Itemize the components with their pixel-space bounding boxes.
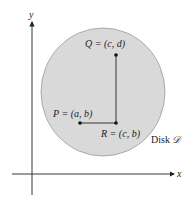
point-Q-label: Q = (c, d) xyxy=(85,38,126,50)
x-axis-label: x xyxy=(176,168,182,179)
diagram-svg: y x Q = (c, d) P = (a, b) R = (c, b) Dis… xyxy=(0,0,191,200)
point-P xyxy=(78,121,82,125)
disk-label: Disk 𝒟 xyxy=(151,134,182,145)
disk-label-symbol: 𝒟 xyxy=(172,134,182,145)
disk-label-prefix: Disk xyxy=(151,134,172,145)
y-axis-label: y xyxy=(28,9,34,20)
diagram-canvas: y x Q = (c, d) P = (a, b) R = (c, b) Dis… xyxy=(0,0,191,200)
point-Q xyxy=(114,53,118,57)
point-R xyxy=(114,121,118,125)
point-R-label: R = (c, b) xyxy=(100,128,141,140)
point-P-label: P = (a, b) xyxy=(52,108,93,120)
